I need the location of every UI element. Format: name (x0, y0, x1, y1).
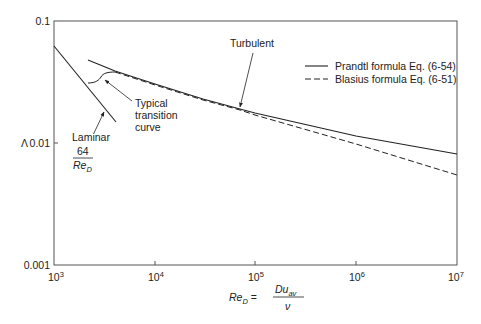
y-tick-label-0.01: 0.01 (30, 137, 51, 149)
laminar-line (54, 46, 116, 122)
y-tick-label-0.1: 0.1 (35, 15, 50, 27)
laminar-numerator: 64 (77, 145, 89, 157)
laminar-label: Laminar (72, 131, 110, 143)
svg-text:ν: ν (285, 300, 291, 312)
x-ticks (155, 261, 356, 265)
x-tick-label-1e7: 107 (448, 270, 464, 283)
y-axis-label: Λ (21, 137, 28, 149)
laminar-denominator: ReD (73, 159, 92, 174)
x-tick-label-1e6: 106 (349, 270, 365, 283)
x-tick-labels: 103 104 105 106 107 (48, 270, 464, 283)
transition-arrow (105, 80, 132, 101)
transition-label: Typical transition curve (135, 97, 181, 133)
x-tick-label-1e4: 104 (148, 270, 164, 283)
legend-prandtl-label: Prandtl formula Eq. (6-54) (335, 60, 456, 72)
x-tick-label-1e5: 105 (248, 270, 264, 283)
svg-text:ReD =: ReD = (229, 291, 257, 306)
legend-blasius-label: Blasius formula Eq. (6-51) (335, 73, 456, 85)
turbulent-label: Turbulent (230, 37, 274, 49)
turbulent-arrow (240, 53, 253, 107)
x-axis-label: ReD = Duav ν (229, 283, 304, 312)
transition-curve (88, 72, 115, 83)
y-tick-label-0.001: 0.001 (24, 259, 50, 271)
legend: Prandtl formula Eq. (6-54) Blasius formu… (305, 60, 456, 85)
svg-text:Duav: Duav (275, 283, 298, 298)
laminar-arrow (94, 112, 104, 133)
x-tick-label-1e3: 103 (48, 270, 64, 283)
chart-canvas: 0.1 0.01 0.001 Λ 103 104 105 106 107 ReD… (0, 0, 481, 324)
